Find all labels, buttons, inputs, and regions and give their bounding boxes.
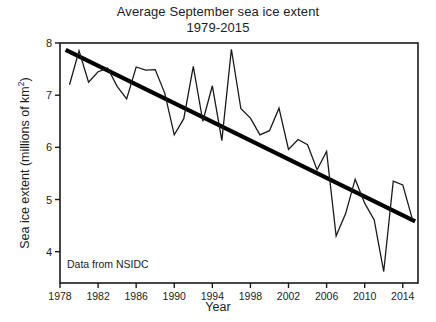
y-tick-label: 6 [46,141,52,153]
y-tick-label: 5 [46,194,52,206]
y-tick-label: 7 [46,89,52,101]
y-axis-label-main: Sea ice extent (millions of km [18,86,32,249]
data-series-line [70,49,413,271]
plot-area: 45678 1978198219861990199419982002200620… [0,0,436,322]
y-axis-label: Sea ice extent (millions of km2) [16,53,32,273]
y-tick-label: 8 [46,37,52,49]
x-axis-label: Year [0,300,436,314]
y-axis-ticks: 45678 [46,37,60,258]
sea-ice-extent-chart: Average September sea ice extent 1979-20… [0,0,436,322]
y-axis-label-superscript: 2 [16,82,26,87]
data-source-annotation: Data from NSIDC [67,258,149,270]
y-axis-label-tail: ) [18,77,32,81]
y-tick-label: 4 [46,246,52,258]
trend-line [66,50,415,222]
